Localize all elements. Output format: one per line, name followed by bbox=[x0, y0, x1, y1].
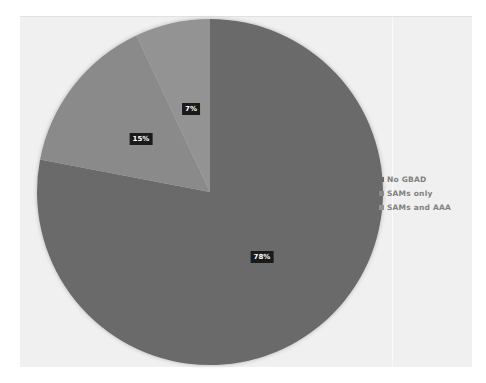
data-label-sams-only: 15% bbox=[130, 133, 153, 145]
legend-label: SAMs only bbox=[387, 189, 433, 198]
legend-item-sams-only: SAMs only bbox=[379, 186, 451, 200]
legend-item-no-gbad: No GBAD bbox=[379, 172, 451, 186]
legend-label: No GBAD bbox=[387, 175, 426, 184]
data-label-no-gbad: 78% bbox=[251, 251, 274, 263]
legend-swatch-icon bbox=[379, 191, 384, 196]
legend-swatch-icon bbox=[379, 205, 384, 210]
data-label-sams-and-aaa: 7% bbox=[182, 103, 200, 115]
legend-label: SAMs and AAA bbox=[387, 203, 451, 212]
legend: No GBAD SAMs only SAMs and AAA bbox=[379, 172, 451, 214]
legend-item-sams-and-aaa: SAMs and AAA bbox=[379, 200, 451, 214]
legend-swatch-icon bbox=[379, 177, 384, 182]
